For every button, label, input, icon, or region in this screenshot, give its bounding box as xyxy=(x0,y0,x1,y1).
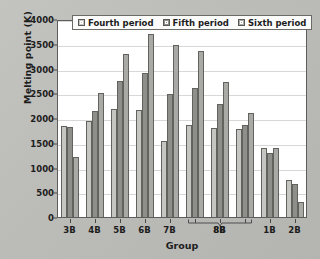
bar xyxy=(173,45,179,217)
legend-entry: Fifth period xyxy=(163,18,229,28)
y-axis-tick-label: 1500 xyxy=(0,139,54,149)
bar-group xyxy=(111,21,131,217)
bar-series-layer xyxy=(58,21,306,217)
x-axis-tick-label: 2B xyxy=(275,225,315,235)
bar-group xyxy=(211,21,231,217)
bar xyxy=(223,82,229,217)
y-axis-tick-label: 2000 xyxy=(0,114,54,124)
bar xyxy=(73,157,79,217)
x-axis-tick-mark xyxy=(295,219,296,223)
bar xyxy=(198,51,204,217)
legend-label: Fifth period xyxy=(173,18,229,28)
legend-swatch-icon xyxy=(163,19,170,26)
x-axis-title: Group xyxy=(57,240,307,251)
group-8b-bracket xyxy=(188,219,252,227)
y-axis-tick-label: 3500 xyxy=(0,40,54,50)
bar-group xyxy=(261,21,281,217)
y-axis-tick-label: 3000 xyxy=(0,65,54,75)
legend-label: Fourth period xyxy=(88,18,154,28)
x-axis-tick-mark xyxy=(95,219,96,223)
bar-group xyxy=(136,21,156,217)
x-axis-tick-mark xyxy=(120,219,121,223)
y-axis-tick-label: 1000 xyxy=(0,164,54,174)
bar xyxy=(123,54,129,217)
legend-entry: Sixth period xyxy=(238,18,306,28)
bar xyxy=(98,93,104,217)
bar-group xyxy=(186,21,206,217)
bar-group xyxy=(286,21,306,217)
chart-figure: Melting point (K) 0500100015002000250030… xyxy=(0,0,320,259)
bar-group xyxy=(86,21,106,217)
bar xyxy=(298,202,304,217)
bar xyxy=(148,34,154,217)
legend-entry: Fourth period xyxy=(78,18,154,28)
bar-group xyxy=(61,21,81,217)
chart-legend: Fourth periodFifth periodSixth period xyxy=(72,15,312,30)
x-axis-tick-mark xyxy=(170,219,171,223)
y-axis-tick-label: 500 xyxy=(0,188,54,198)
x-axis-tick-label: 7B xyxy=(150,225,190,235)
bar-group xyxy=(161,21,181,217)
y-axis-tick-label: 0 xyxy=(0,213,54,223)
x-axis-tick-mark xyxy=(145,219,146,223)
x-axis-tick-mark xyxy=(270,219,271,223)
bar xyxy=(248,113,254,217)
y-axis-tick-label: 2500 xyxy=(0,89,54,99)
legend-swatch-icon xyxy=(78,19,85,26)
bar xyxy=(273,148,279,217)
bar-group xyxy=(236,21,256,217)
y-axis-tick-label: 4000 xyxy=(0,15,54,25)
plot-area xyxy=(57,20,307,218)
x-axis-tick-mark xyxy=(70,219,71,223)
legend-label: Sixth period xyxy=(248,18,306,28)
legend-swatch-icon xyxy=(238,19,245,26)
